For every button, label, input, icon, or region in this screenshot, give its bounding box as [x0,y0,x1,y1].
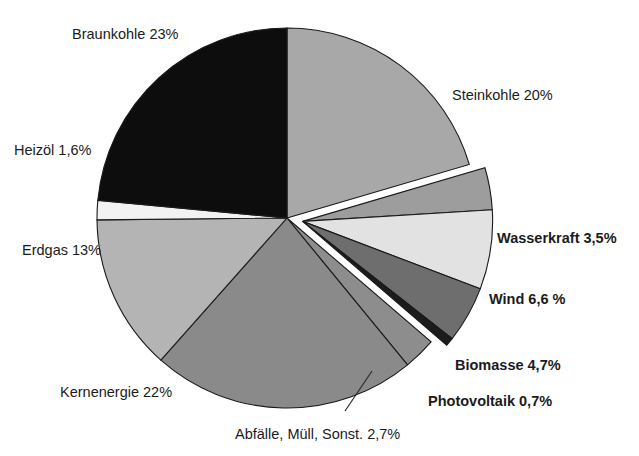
slice-label-biomasse: Biomasse 4,7% [455,358,561,373]
slice-label-heizoel: Heizöl 1,6% [14,143,91,158]
slice-label-wind: Wind 6,6 % [489,292,565,307]
slice-label-erdgas: Erdgas 13% [22,243,101,258]
pie-chart-figure: Braunkohle 23% Steinkohle 20% Heizöl 1,6… [0,0,639,456]
pie-slice-braunkohle[interactable] [98,28,287,218]
slice-label-photovoltaik: Photovoltaik 0,7% [428,394,552,409]
slice-label-abfaelle: Abfälle, Müll, Sonst. 2,7% [235,427,400,442]
slice-label-wasserkraft: Wasserkraft 3,5% [497,231,617,246]
pie-slice-group [97,28,493,408]
slice-label-kernenergie: Kernenergie 22% [60,385,172,400]
slice-label-braunkohle: Braunkohle 23% [72,27,178,42]
slice-label-steinkohle: Steinkohle 20% [452,88,553,103]
